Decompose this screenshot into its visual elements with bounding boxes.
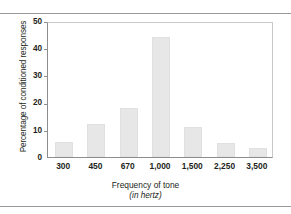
x-tick-label: 300: [47, 162, 79, 170]
top-divider-rule: [0, 13, 291, 14]
x-tick-label: 2,250: [208, 162, 240, 170]
x-axis-title: Frequency of tone: [112, 180, 180, 190]
bar: [55, 142, 73, 157]
x-tick-label: 670: [112, 162, 144, 170]
y-tick-label: 0: [22, 154, 42, 162]
plot-area: [47, 22, 273, 158]
x-tick-label: 1,500: [176, 162, 208, 170]
bar-series: [48, 23, 272, 157]
y-tick-label: 50: [22, 18, 42, 26]
x-tick-label: 450: [79, 162, 111, 170]
bar: [249, 148, 267, 157]
y-axis-title: Percentage of conditioned responses: [19, 12, 28, 162]
y-tick-label: 40: [22, 45, 42, 53]
bar: [120, 108, 138, 157]
bar: [217, 143, 235, 157]
x-tick-label: 3,500: [241, 162, 273, 170]
x-axis-title-block: Frequency of tone (in hertz): [0, 180, 291, 201]
bar: [184, 127, 202, 157]
x-tick-label: 1,000: [144, 162, 176, 170]
bottom-divider-rule: [0, 206, 291, 207]
y-tick-label: 20: [22, 99, 42, 107]
x-axis-subtitle: (in hertz): [0, 191, 291, 201]
y-tick-label: 30: [22, 72, 42, 80]
bar: [152, 37, 170, 157]
bar: [87, 124, 105, 157]
y-tick-label: 10: [22, 127, 42, 135]
figure-container: Percentage of conditioned responses 0102…: [0, 0, 291, 214]
